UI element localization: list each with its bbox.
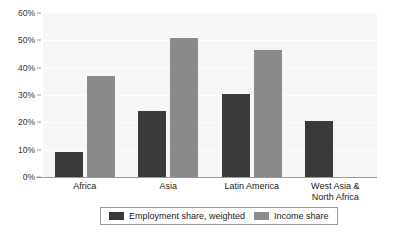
x-axis-tick-label: West Asia & North Africa bbox=[294, 181, 378, 203]
legend-label: Employment share, weighted bbox=[129, 211, 245, 221]
x-axis-tick-label: Africa bbox=[43, 181, 127, 192]
y-axis-tick-label: 10% bbox=[18, 145, 35, 154]
bar bbox=[170, 38, 198, 177]
y-axis-tick-mark bbox=[37, 122, 41, 123]
legend-item[interactable]: Employment share, weighted bbox=[109, 211, 245, 221]
y-axis-tick-mark bbox=[37, 67, 41, 68]
bar bbox=[55, 152, 83, 177]
legend-label: Income share bbox=[274, 211, 329, 221]
x-axis-baseline bbox=[36, 177, 377, 178]
x-axis-tick-label: Latin America bbox=[210, 181, 294, 192]
y-axis-tick-label: 60% bbox=[18, 9, 35, 18]
legend-item[interactable]: Income share bbox=[254, 211, 329, 221]
y-axis-tick-label: 40% bbox=[18, 63, 35, 72]
legend-swatch-icon bbox=[254, 212, 269, 220]
bar bbox=[87, 76, 115, 177]
y-axis: 0%10%20%30%40%50%60% bbox=[0, 0, 43, 190]
x-axis-tick-label: Asia bbox=[127, 181, 211, 192]
legend-swatch-icon bbox=[109, 212, 124, 220]
bar bbox=[138, 111, 166, 177]
y-axis-tick-label: 20% bbox=[18, 118, 35, 127]
y-axis-tick-mark bbox=[37, 13, 41, 14]
y-axis-tick-mark bbox=[37, 95, 41, 96]
bar bbox=[305, 121, 333, 177]
bar bbox=[222, 94, 250, 177]
bar-chart: 0%10%20%30%40%50%60% AfricaAsiaLatin Ame… bbox=[0, 0, 393, 239]
y-axis-tick-label: 0% bbox=[23, 173, 35, 182]
y-axis-tick-label: 30% bbox=[18, 91, 35, 100]
legend: Employment share, weightedIncome share bbox=[100, 207, 338, 225]
y-axis-tick-label: 50% bbox=[18, 36, 35, 45]
y-axis-tick-mark bbox=[37, 149, 41, 150]
bars-layer bbox=[43, 13, 377, 177]
bar bbox=[254, 50, 282, 177]
y-axis-tick-mark bbox=[37, 40, 41, 41]
